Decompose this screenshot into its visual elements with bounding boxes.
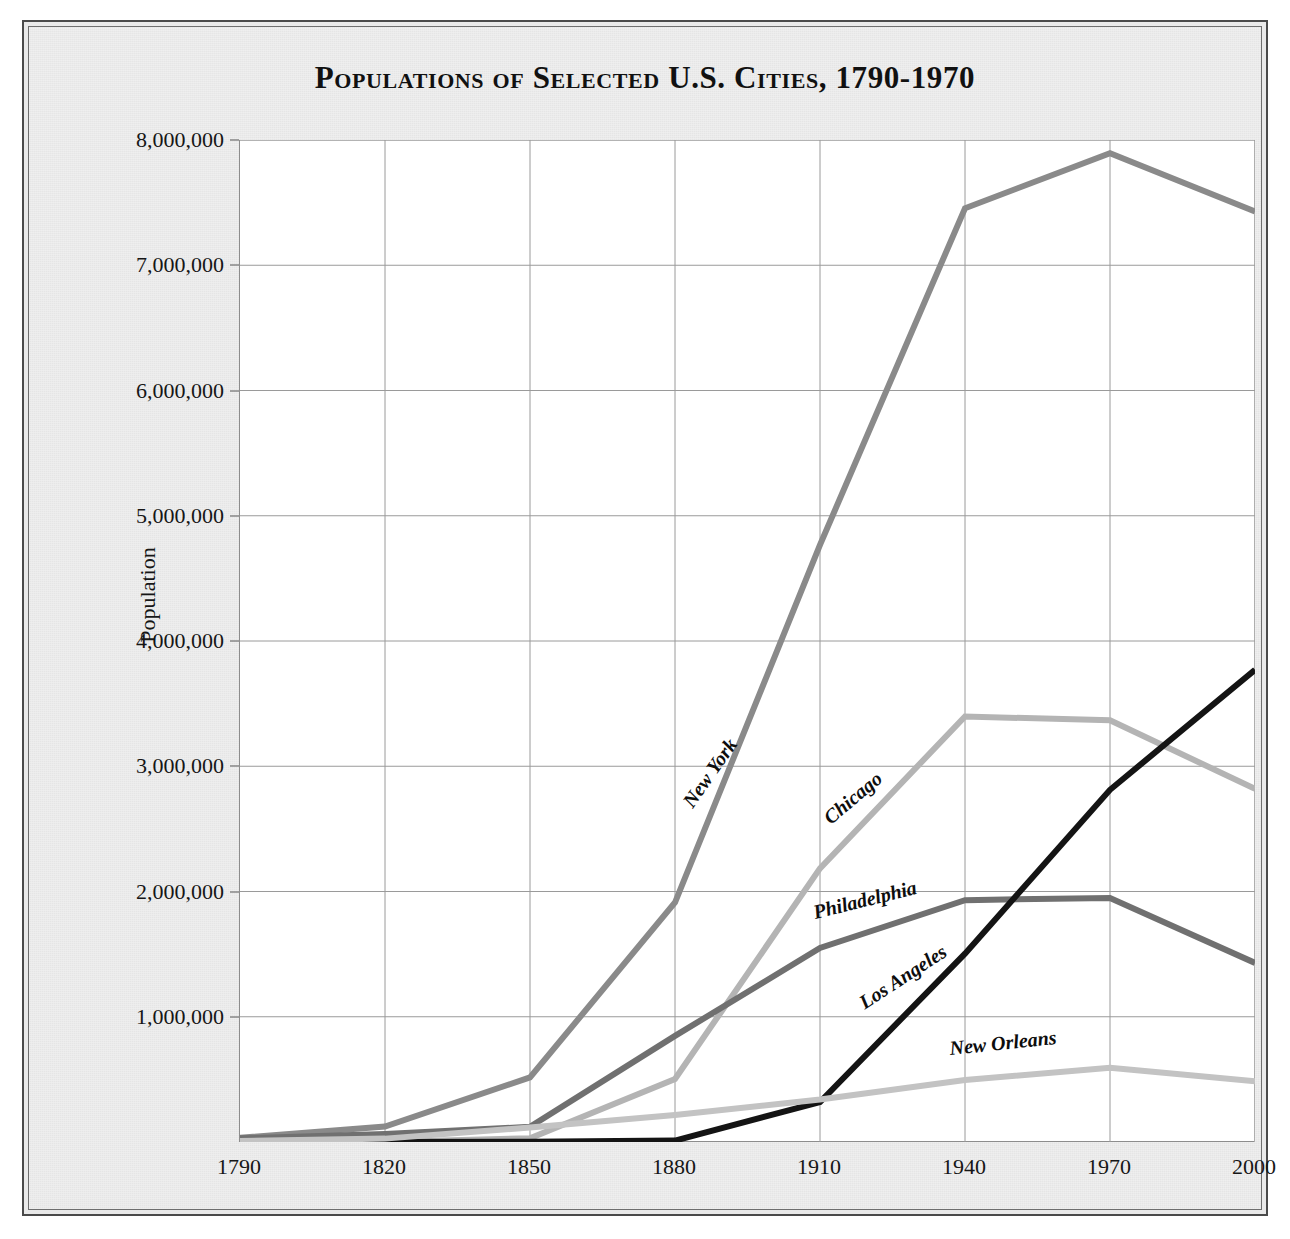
x-axis-tick-label: 1850 [507,1154,551,1180]
x-axis-tick-label: 1970 [1087,1154,1131,1180]
x-axis-tick-label: 2000 [1232,1154,1276,1180]
series-line-new-orleans [240,1068,1255,1141]
x-axis-tick-label: 1880 [652,1154,696,1180]
x-axis-tick-label: 1910 [797,1154,841,1180]
y-axis-tick-mark [230,265,239,266]
chart-figure: Populations of Selected U.S. Cities, 179… [0,0,1290,1239]
x-axis-tick-label: 1820 [362,1154,406,1180]
series-line-chicago [240,717,1255,1142]
figure-frame-outer: Populations of Selected U.S. Cities, 179… [22,20,1268,1216]
x-axis-tick-label: 1940 [942,1154,986,1180]
y-axis-tick-mark [230,140,239,141]
x-axis-tick-labels: 17901820185018801910194019702000 [239,1154,1254,1188]
x-axis-tick-label: 1790 [217,1154,261,1180]
y-axis-tick-mark [230,1016,239,1017]
y-axis-tick-mark [230,390,239,391]
page-title: Populations of Selected U.S. Cities, 179… [24,60,1266,96]
plot-area: New YorkChicagoPhiladelphiaLos AngelesNe… [239,140,1254,1142]
y-axis-tick-marks [24,140,239,1142]
y-axis-tick-mark [230,641,239,642]
y-axis-tick-mark [230,766,239,767]
y-axis-tick-mark [230,515,239,516]
y-axis-tick-mark [230,891,239,892]
series-line-philadelphia [240,898,1255,1138]
chart-canvas [240,140,1255,1142]
